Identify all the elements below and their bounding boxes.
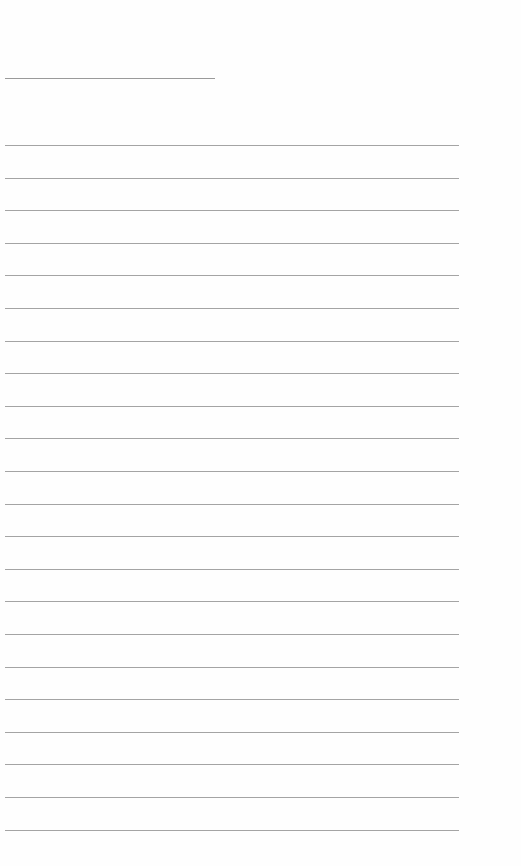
- ruled-line: [5, 178, 459, 179]
- ruled-line: [5, 373, 459, 374]
- ruled-line: [5, 699, 459, 700]
- ruled-line: [5, 308, 459, 309]
- ruled-line: [5, 536, 459, 537]
- lined-page: [0, 0, 521, 866]
- ruled-line: [5, 341, 459, 342]
- ruled-lines-container: [0, 0, 521, 866]
- ruled-line: [5, 210, 459, 211]
- ruled-line: [5, 830, 459, 831]
- ruled-line: [5, 601, 459, 602]
- ruled-line: [5, 764, 459, 765]
- ruled-line: [5, 634, 459, 635]
- ruled-line: [5, 732, 459, 733]
- ruled-line: [5, 504, 459, 505]
- ruled-line: [5, 145, 459, 146]
- ruled-line: [5, 797, 459, 798]
- ruled-line: [5, 471, 459, 472]
- ruled-line: [5, 406, 459, 407]
- ruled-line: [5, 275, 459, 276]
- ruled-line: [5, 667, 459, 668]
- ruled-line: [5, 569, 459, 570]
- ruled-line: [5, 438, 459, 439]
- ruled-line: [5, 243, 459, 244]
